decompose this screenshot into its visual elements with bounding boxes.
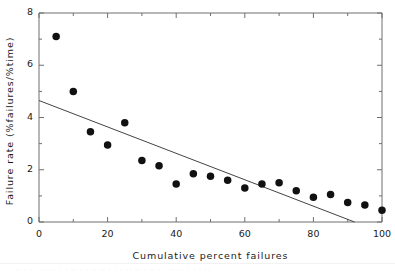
y-tick-label: 4 xyxy=(9,111,33,122)
plot-area: 02468 020406080100 xyxy=(39,13,382,222)
data-point xyxy=(344,199,352,207)
data-point xyxy=(327,191,335,199)
x-tick-label: 20 xyxy=(93,228,123,239)
data-point xyxy=(361,201,369,209)
data-point xyxy=(138,157,146,165)
trend-line xyxy=(39,101,355,222)
data-point xyxy=(121,119,129,127)
y-tick-label: 0 xyxy=(9,215,33,226)
data-point xyxy=(172,180,180,188)
data-point xyxy=(104,141,112,149)
data-point xyxy=(70,88,78,96)
y-tick-label: 8 xyxy=(9,6,33,17)
scan-rule-divider xyxy=(0,263,395,264)
data-point xyxy=(378,206,386,214)
data-point xyxy=(275,179,283,187)
data-point xyxy=(241,184,249,192)
data-point xyxy=(258,180,266,188)
y-tick-label: 6 xyxy=(9,58,33,69)
data-point xyxy=(310,193,318,201)
x-tick-label: 60 xyxy=(230,228,260,239)
axes-group xyxy=(39,13,382,222)
y-tick-label: 2 xyxy=(9,163,33,174)
x-tick-label: 100 xyxy=(367,228,395,239)
scan-artifact-text: · ·· · · · ·· ·· · · ·· · · ·· ·· · · · … xyxy=(10,266,385,273)
data-point xyxy=(293,187,301,195)
plot-svg xyxy=(39,13,382,222)
data-point xyxy=(190,170,198,178)
x-axis-title: Cumulative percent failures xyxy=(39,250,382,261)
failure-rate-chart-figure: Failure rate (%failures/%time) Cumulativ… xyxy=(0,0,395,274)
data-point xyxy=(87,128,95,136)
x-tick-label: 80 xyxy=(298,228,328,239)
data-points xyxy=(52,33,385,214)
trend-line-segment xyxy=(39,101,355,222)
data-point xyxy=(155,162,163,170)
data-point xyxy=(52,33,60,41)
x-tick-label: 0 xyxy=(24,228,54,239)
data-point xyxy=(207,173,215,181)
x-tick-label: 40 xyxy=(161,228,191,239)
data-point xyxy=(224,176,232,184)
